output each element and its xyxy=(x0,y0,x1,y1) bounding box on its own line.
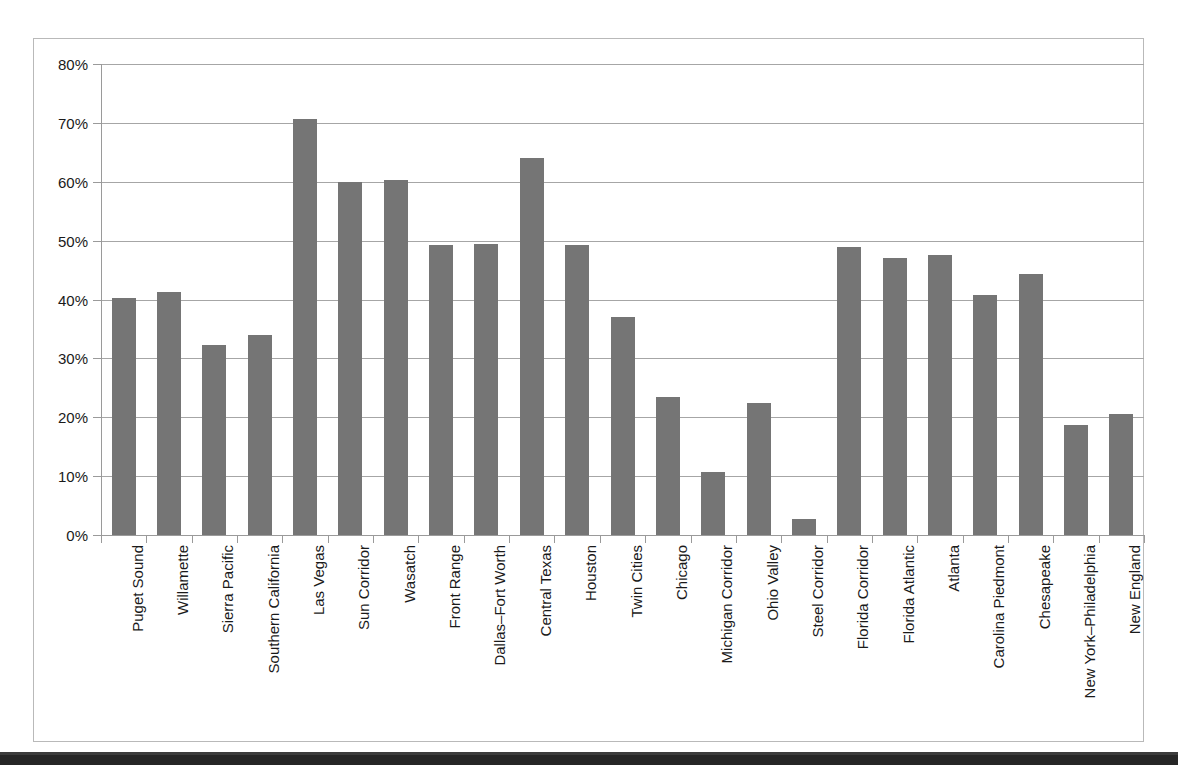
y-axis-tick-label: 40% xyxy=(40,293,88,308)
bar-chart: 80%70%60%50%40%30%20%10%0% Puget SoundWi… xyxy=(34,39,1143,741)
y-axis-tick xyxy=(93,358,102,359)
x-axis-tick xyxy=(464,535,465,543)
x-axis-tick xyxy=(237,535,238,543)
bar[interactable] xyxy=(474,244,498,535)
bar[interactable] xyxy=(565,245,589,535)
x-axis-tick xyxy=(963,535,964,543)
x-axis-category-label: Chicago xyxy=(674,545,689,600)
bar[interactable] xyxy=(338,182,362,535)
x-axis-category-label: Wasatch xyxy=(402,545,417,603)
x-axis-category-label: New York–Philadelphia xyxy=(1082,545,1097,698)
bar[interactable] xyxy=(429,245,453,535)
x-axis-ticks xyxy=(101,535,1144,543)
x-axis-category-label: Atlanta xyxy=(946,545,961,592)
x-axis-category-label: Steel Corridor xyxy=(810,545,825,638)
x-axis-category-label: Front Range xyxy=(447,545,462,628)
bar[interactable] xyxy=(202,345,226,535)
x-axis-category-label: Las Vegas xyxy=(311,545,326,615)
y-axis-tick-label: 50% xyxy=(40,234,88,249)
x-axis-tick xyxy=(645,535,646,543)
x-axis-category-label: Florida Corridor xyxy=(855,545,870,649)
y-axis-tick xyxy=(93,476,102,477)
y-axis-tick xyxy=(93,535,102,536)
gridline xyxy=(101,64,1144,65)
bar[interactable] xyxy=(883,258,907,535)
y-axis-tick-label: 70% xyxy=(40,116,88,131)
bar[interactable] xyxy=(1109,414,1133,535)
scanned-page-frame: 80%70%60%50%40%30%20%10%0% Puget SoundWi… xyxy=(33,38,1144,742)
bar[interactable] xyxy=(701,472,725,535)
x-axis-tick xyxy=(1053,535,1054,543)
x-axis-category-label: Michigan Corridor xyxy=(719,545,734,663)
y-axis-tick-label: 60% xyxy=(40,175,88,190)
x-axis-tick xyxy=(328,535,329,543)
x-axis-tick xyxy=(872,535,873,543)
x-axis-category-label: Twin Cities xyxy=(629,545,644,618)
bar[interactable] xyxy=(112,298,136,535)
x-axis-tick xyxy=(1099,535,1100,543)
x-axis-tick xyxy=(736,535,737,543)
bar[interactable] xyxy=(248,335,272,535)
bar[interactable] xyxy=(1019,274,1043,535)
x-axis-tick xyxy=(373,535,374,543)
x-axis-tick xyxy=(827,535,828,543)
y-axis-tick xyxy=(93,123,102,124)
bar[interactable] xyxy=(1064,425,1088,535)
bar[interactable] xyxy=(747,403,771,535)
x-axis-category-label: Ohio Valley xyxy=(765,545,780,621)
x-axis-tick xyxy=(554,535,555,543)
x-axis-tick xyxy=(192,535,193,543)
bar[interactable] xyxy=(928,255,952,535)
y-axis-tick xyxy=(93,241,102,242)
bar[interactable] xyxy=(973,295,997,535)
x-axis-category-label: Southern California xyxy=(266,545,281,673)
y-axis-tick xyxy=(93,64,102,65)
x-axis-tick xyxy=(146,535,147,543)
bar[interactable] xyxy=(837,247,861,535)
x-axis-category-label: New England xyxy=(1127,545,1142,634)
y-axis-tick-label: 30% xyxy=(40,351,88,366)
bar[interactable] xyxy=(611,317,635,535)
x-axis-tick xyxy=(282,535,283,543)
x-axis-category-label: Sun Corridor xyxy=(356,545,371,630)
x-axis-category-label: Puget Sound xyxy=(130,545,145,632)
bar[interactable] xyxy=(520,158,544,535)
x-axis-labels: Puget SoundWillametteSierra PacificSouth… xyxy=(101,545,1144,735)
x-axis-tick xyxy=(509,535,510,543)
x-axis-category-label: Central Texas xyxy=(538,545,553,636)
x-axis-tick xyxy=(600,535,601,543)
bar[interactable] xyxy=(792,519,816,535)
x-axis-tick xyxy=(691,535,692,543)
x-axis-category-label: Dallas–Fort Worth xyxy=(492,545,507,666)
x-axis-tick xyxy=(917,535,918,543)
gridline xyxy=(101,123,1144,124)
gridline xyxy=(101,182,1144,183)
x-axis-tick xyxy=(101,535,102,543)
x-axis-tick xyxy=(781,535,782,543)
y-axis-labels: 80%70%60%50%40%30%20%10%0% xyxy=(34,64,88,535)
x-axis-category-label: Florida Atlantic xyxy=(901,545,916,643)
y-axis-tick xyxy=(93,182,102,183)
y-axis-tick-label: 10% xyxy=(40,469,88,484)
x-axis-tick xyxy=(418,535,419,543)
x-axis-category-label: Carolina Piedmont xyxy=(991,545,1006,668)
y-axis-tick-label: 80% xyxy=(40,57,88,72)
x-axis-tick xyxy=(1008,535,1009,543)
x-axis-tick xyxy=(1144,535,1145,543)
gridline xyxy=(101,241,1144,242)
x-axis-category-label: Chesapeake xyxy=(1037,545,1052,629)
x-axis-category-label: Sierra Pacific xyxy=(220,545,235,633)
scanner-edge-strip xyxy=(0,752,1178,765)
bar[interactable] xyxy=(157,292,181,535)
y-axis-tick xyxy=(93,417,102,418)
x-axis-category-label: Willamette xyxy=(175,545,190,615)
bar[interactable] xyxy=(293,119,317,535)
y-axis-tick xyxy=(93,300,102,301)
x-axis-category-label: Houston xyxy=(583,545,598,601)
bar[interactable] xyxy=(656,397,680,535)
y-axis-tick-label: 0% xyxy=(40,528,88,543)
y-axis-tick-label: 20% xyxy=(40,410,88,425)
bar[interactable] xyxy=(384,180,408,535)
plot-area xyxy=(101,64,1144,535)
